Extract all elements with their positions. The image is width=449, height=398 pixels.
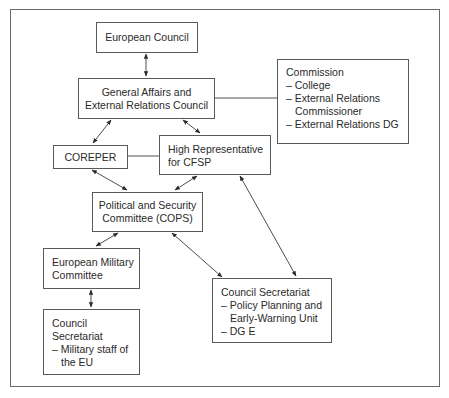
node-label-line-2: for CFSP <box>168 156 270 169</box>
node-title-line-2: Secretariat <box>52 330 139 343</box>
node-label: COREPER <box>65 151 117 164</box>
node-item: – Military staff of <box>52 343 139 356</box>
node-item-continuation: Early-Warning Unit <box>221 312 331 325</box>
node-coreper: COREPER <box>53 145 128 169</box>
node-item-continuation: the EU <box>52 356 139 369</box>
node-label-line-1: General Affairs and <box>102 86 192 99</box>
node-label-line-2: Committee <box>52 269 139 282</box>
node-item: – DG E <box>221 325 331 338</box>
node-label-line-2: External Relations Council <box>85 99 208 112</box>
node-high-representative: High Representative for CFSP <box>159 135 271 175</box>
node-council-secretariat-military: Council Secretariat – Military staff of … <box>43 309 140 375</box>
node-label-line-1: High Representative <box>168 143 270 156</box>
node-title: Commission <box>286 66 408 79</box>
node-european-council: European Council <box>96 22 198 53</box>
node-label-line-1: Political and Security <box>99 199 196 212</box>
node-item: – External Relations DG <box>286 118 408 131</box>
node-item-continuation: Commissioner <box>286 105 408 118</box>
node-label: European Council <box>105 31 188 44</box>
node-council-secretariat-ppewu: Council Secretariat – Policy Planning an… <box>212 278 332 343</box>
node-european-military-committee: European Military Committee <box>43 248 140 289</box>
node-commission: Commission – College – External Relation… <box>277 59 409 144</box>
node-item: – College <box>286 79 408 92</box>
node-general-affairs-council: General Affairs and External Relations C… <box>78 78 215 119</box>
node-label-line-1: European Military <box>52 256 139 269</box>
node-label-line-2: Committee (COPS) <box>102 212 192 225</box>
node-title: Council Secretariat <box>221 286 331 299</box>
node-item: – Policy Planning and <box>221 299 331 312</box>
node-political-security-committee: Political and Security Committee (COPS) <box>92 192 203 232</box>
node-item: – External Relations <box>286 92 408 105</box>
node-title-line-1: Council <box>52 317 139 330</box>
